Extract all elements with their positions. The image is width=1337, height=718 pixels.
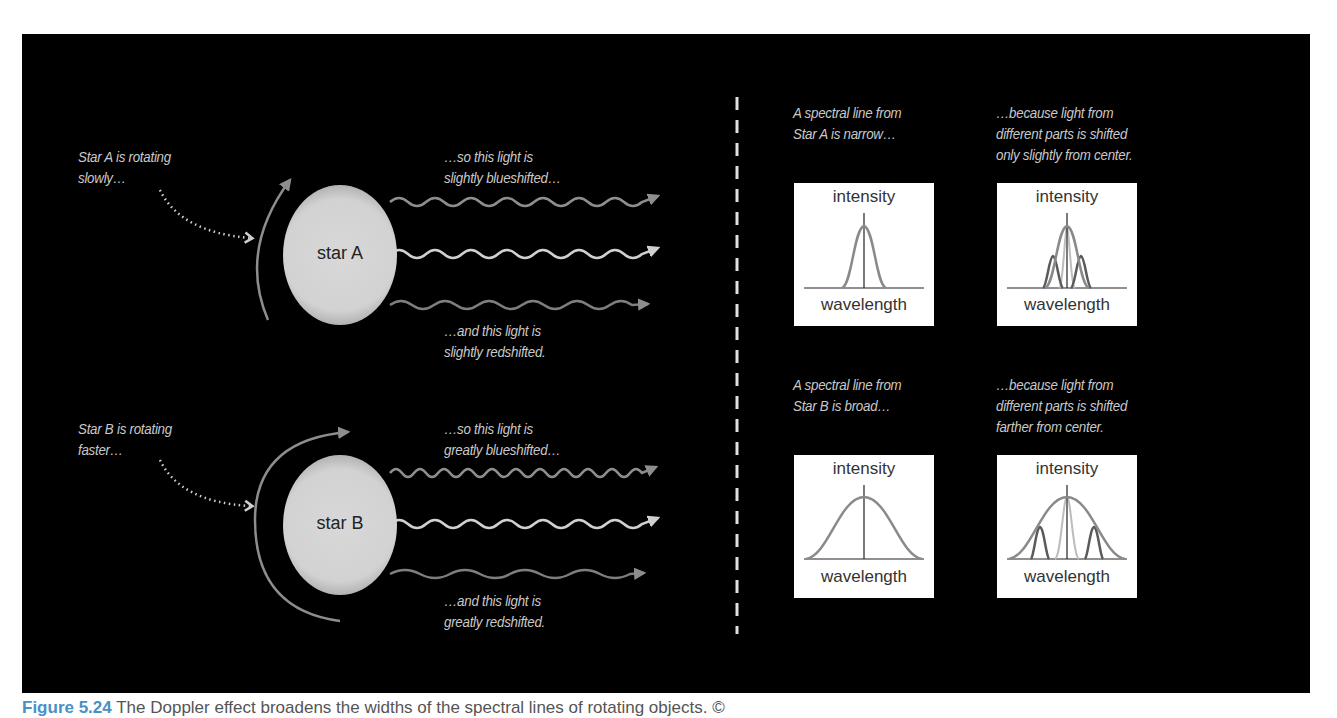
plot-narrow-decomposed: intensity wavelength (997, 183, 1137, 326)
plot-broad-line: intensity wavelength (794, 455, 934, 598)
star-b-redshift-label: …and this light is greatly redshifted. (444, 590, 545, 632)
blueshift-wave-a (390, 196, 658, 206)
figure-number: Figure 5.24 (22, 698, 112, 717)
caption-text: The Doppler effect broadens the widths o… (112, 698, 725, 717)
star-a-rotation-label: Star A is rotating slowly… (78, 146, 171, 188)
broad-explain-label: …because light from different parts is s… (996, 374, 1127, 437)
broad-line-label: A spectral line from Star B is broad… (793, 374, 901, 416)
star-a-blueshift-label: …so this light is slightly blueshifted… (444, 146, 561, 188)
wavelength-label: wavelength (997, 567, 1137, 587)
redshift-wave-b (390, 570, 644, 578)
plot-broad-decomposed: intensity wavelength (997, 455, 1137, 598)
star-b: star B (283, 455, 397, 595)
pointer-arrow-a (160, 190, 250, 238)
redshift-wave-a (390, 301, 648, 309)
star-a-label: star A (283, 243, 397, 264)
pointer-arrow-b (160, 460, 250, 506)
figure-caption: Figure 5.24 The Doppler effect broadens … (22, 698, 725, 718)
center-wave-a (390, 248, 658, 258)
wavelength-label: wavelength (794, 567, 934, 587)
star-a: star A (283, 185, 397, 325)
star-b-label: star B (283, 513, 397, 534)
wavelength-label: wavelength (794, 295, 934, 315)
blueshift-wave-b (390, 467, 656, 477)
star-b-rotation-label: Star B is rotating faster… (78, 418, 172, 460)
star-a-redshift-label: …and this light is slightly redshifted. (444, 320, 546, 362)
plot-narrow-line: intensity wavelength (794, 183, 934, 326)
wavelength-label: wavelength (997, 295, 1137, 315)
star-b-blueshift-label: …so this light is greatly blueshifted… (444, 418, 560, 460)
narrow-line-label: A spectral line from Star A is narrow… (793, 102, 901, 144)
narrow-explain-label: …because light from different parts is s… (996, 102, 1133, 165)
center-wave-b (390, 518, 658, 528)
